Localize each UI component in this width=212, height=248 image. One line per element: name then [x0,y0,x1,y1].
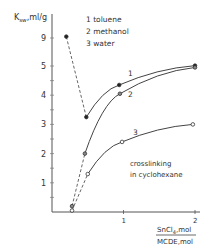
legend-item-methanol: 2 methanol [86,27,129,36]
x-axis-numerator: SnCl4,mol [157,226,191,235]
data-point-methanol [118,92,122,96]
series-methanol-dashed [72,154,85,207]
series-methanol-curve [85,67,195,153]
y-tick-label: 3 [41,120,46,129]
data-point-toluene [85,115,89,119]
series-group [65,35,197,213]
data-point-toluene [65,35,69,39]
series-water-dashed [72,174,88,211]
data-point-water [120,140,124,144]
y-tick-label: 1 [41,179,46,188]
y-axis-title: Ksw,ml/g [14,13,47,23]
data-point-methanol [193,66,197,70]
axes: 123459 12 [41,14,200,225]
data-point-water [191,123,195,127]
legend-item-water: 3 water [86,39,115,48]
annotation-line2: in cyclohexane [130,171,182,179]
legend: 1 toluene 2 methanol 3 water [86,15,129,48]
series-toluene-curve [86,66,195,117]
series-label-3: 3 [133,128,138,137]
x-tick-label: 2 [193,217,197,225]
y-tick-label: 5 [41,62,46,71]
data-point-methanol [70,204,74,208]
series-label-1: 1 [128,69,133,78]
annotation-line1: crosslinking [130,160,171,168]
swelling-chart: 123459 12 Ksw,ml/g 1 toluene 2 methanol … [0,0,212,248]
y-tick-label: 4 [41,91,46,100]
series-toluene-dashed [66,37,86,118]
data-point-water [70,209,74,213]
series-label-2: 2 [128,90,133,99]
x-axis-title: SnCl4,mol MCDE,mol [156,226,196,246]
x-tick-label: 1 [122,217,126,225]
data-point-toluene [117,83,121,87]
y-tick-label: 2 [41,150,46,159]
x-axis-denominator: MCDE,mol [157,238,193,246]
legend-item-toluene: 1 toluene [86,15,122,24]
data-point-methanol [83,152,87,156]
data-point-water [86,172,90,176]
y-tick-label: 9 [41,34,46,43]
